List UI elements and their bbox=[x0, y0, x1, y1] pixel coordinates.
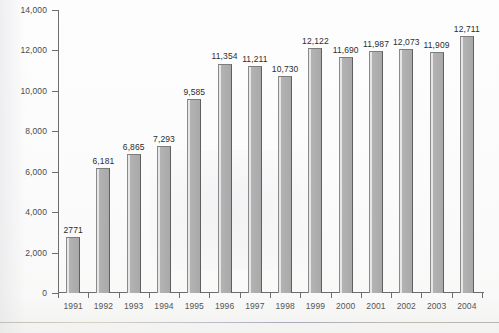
scan-artifact-bottom-line bbox=[0, 322, 499, 323]
bar bbox=[308, 48, 322, 293]
bar-value-label: 12,122 bbox=[302, 36, 329, 46]
x-axis-tick-label: 2002 bbox=[397, 301, 416, 311]
x-axis-tick bbox=[58, 293, 59, 298]
bar bbox=[369, 51, 383, 293]
x-axis-tick-label: 1991 bbox=[63, 301, 82, 311]
bar-value-label: 2771 bbox=[63, 225, 82, 235]
x-axis-tick-label: 2000 bbox=[336, 301, 355, 311]
x-axis-tick bbox=[482, 293, 483, 298]
bar-value-label: 12,711 bbox=[454, 24, 480, 34]
bar-value-label: 7,293 bbox=[153, 134, 175, 144]
x-axis-tick bbox=[361, 293, 362, 298]
bar bbox=[430, 52, 444, 293]
y-axis-tick-label: 0 bbox=[42, 288, 47, 298]
x-axis-tick-label: 1997 bbox=[245, 301, 264, 311]
x-axis-tick-label: 2004 bbox=[457, 301, 476, 311]
x-axis-tick bbox=[88, 293, 89, 298]
y-axis-tick-label: 4,000 bbox=[25, 207, 47, 217]
x-axis-tick-label: 1992 bbox=[94, 301, 113, 311]
bar bbox=[218, 64, 232, 294]
x-axis-tick bbox=[452, 293, 453, 298]
bar bbox=[157, 146, 171, 293]
x-axis-tick-label: 1999 bbox=[306, 301, 325, 311]
y-axis-tick-label: 14,000 bbox=[20, 5, 47, 15]
x-axis-tick bbox=[149, 293, 150, 298]
bar bbox=[339, 57, 353, 293]
bar bbox=[66, 237, 80, 293]
bar bbox=[187, 99, 201, 293]
bar-value-label: 11,354 bbox=[212, 51, 238, 61]
x-axis-tick bbox=[331, 293, 332, 298]
x-axis-tick-label: 1996 bbox=[215, 301, 234, 311]
y-axis-tick-label: 8,000 bbox=[25, 126, 47, 136]
bar bbox=[278, 76, 292, 293]
bar-value-label: 10,730 bbox=[272, 64, 299, 74]
bar-value-label: 11,690 bbox=[333, 45, 359, 55]
x-axis-tick-label: 1995 bbox=[185, 301, 204, 311]
bar-value-label: 6,181 bbox=[93, 156, 115, 166]
x-axis-tick bbox=[270, 293, 271, 298]
x-axis-tick bbox=[209, 293, 210, 298]
bar-chart-figure: 02,0004,0006,0008,00010,00012,00014,000 … bbox=[0, 0, 499, 333]
y-axis-tick-label: 12,000 bbox=[20, 45, 47, 55]
bar-value-label: 6,865 bbox=[123, 142, 145, 152]
x-axis-tick bbox=[421, 293, 422, 298]
x-axis-tick bbox=[179, 293, 180, 298]
x-axis-tick-label: 1998 bbox=[275, 301, 294, 311]
x-axis-tick-label: 2001 bbox=[366, 301, 385, 311]
y-axis-tick-label: 10,000 bbox=[20, 86, 47, 96]
x-axis-tick bbox=[240, 293, 241, 298]
bar bbox=[399, 49, 413, 293]
bar-value-label: 11,909 bbox=[424, 40, 450, 50]
x-axis-tick bbox=[119, 293, 120, 298]
bar bbox=[460, 36, 474, 293]
bar-value-label: 11,987 bbox=[363, 39, 389, 49]
plot-area bbox=[58, 10, 482, 293]
x-axis-tick bbox=[300, 293, 301, 298]
y-axis-tick-label: 6,000 bbox=[25, 167, 47, 177]
bar-value-label: 9,585 bbox=[183, 87, 205, 97]
x-axis-tick-label: 1993 bbox=[124, 301, 143, 311]
bar-value-label: 11,211 bbox=[242, 54, 267, 64]
bar bbox=[96, 168, 110, 293]
x-axis-tick-label: 2003 bbox=[427, 301, 446, 311]
bar bbox=[127, 154, 141, 293]
bar-value-label: 12,073 bbox=[393, 37, 420, 47]
bar bbox=[248, 66, 262, 293]
x-axis-tick bbox=[391, 293, 392, 298]
x-axis-tick-label: 1994 bbox=[154, 301, 173, 311]
y-axis-tick-label: 2,000 bbox=[25, 248, 47, 258]
